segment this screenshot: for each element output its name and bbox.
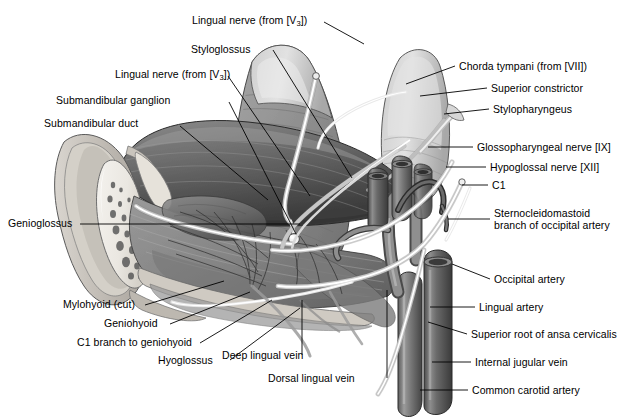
cranial-nerves-region xyxy=(172,92,470,394)
label-lingual-nerve-v3-mid: Lingual nerve (from [V3]) xyxy=(115,68,230,82)
label-hyoglossus: Hyoglossus xyxy=(158,354,213,366)
tongue-body xyxy=(121,121,406,227)
label-submandibular-ganglion: Submandibular ganglion xyxy=(56,94,170,106)
label-common-carotid-artery: Common carotid artery xyxy=(472,384,580,396)
label-superior-constrictor: Superior constrictor xyxy=(491,82,583,94)
anatomical-figure: Lingual nerve (from [V3]) Styloglossus L… xyxy=(0,0,626,420)
label-stylopharyngeus: Stylopharyngeus xyxy=(493,103,572,115)
lingual-veins xyxy=(252,286,362,356)
label-deep-lingual-vein: Deep lingual vein xyxy=(222,349,303,361)
label-occipital-artery: Occipital artery xyxy=(494,273,565,285)
cut-vessel-stumps xyxy=(368,156,432,231)
stylopharyngeus xyxy=(368,104,464,190)
superior-constrictor xyxy=(381,50,449,206)
label-sternocleidomastoid-branch: Sternocleidomastoid branch of occipital … xyxy=(494,207,612,231)
label-c1-branch-to-geniohyoid: C1 branch to geniohyoid xyxy=(77,336,192,348)
sublingual-gland xyxy=(162,196,266,240)
submandibular-ganglion-node xyxy=(289,234,300,245)
label-lingual-artery: Lingual artery xyxy=(479,301,543,313)
label-geniohyoid: Geniohyoid xyxy=(104,317,158,329)
label-superior-root-ansa-cervicalis: Superior root of ansa cervicalis xyxy=(471,328,617,340)
label-styloglossus: Styloglossus xyxy=(191,43,251,55)
label-dorsal-lingual-vein: Dorsal lingual vein xyxy=(268,372,355,384)
styloglossus xyxy=(282,140,410,250)
genioglossus-muscle xyxy=(233,45,350,285)
trabecular-bone xyxy=(107,182,143,280)
label-internal-jugular-vein: Internal jugular vein xyxy=(475,356,568,368)
label-mylohyoid-cut: Mylohyoid (cut) xyxy=(63,298,135,310)
label-glossopharyngeal-nerve: Glossopharyngeal nerve [IX] xyxy=(477,141,611,153)
label-submandibular-duct: Submandibular duct xyxy=(44,117,138,129)
label-c1: C1 xyxy=(492,179,506,191)
submandibular-duct xyxy=(136,206,292,244)
label-genioglossus: Genioglossus xyxy=(8,217,72,229)
lingual-nerve xyxy=(285,73,320,245)
label-lingual-nerve-v3-top: Lingual nerve (from [V3]) xyxy=(192,14,307,28)
label-hypoglossal-nerve: Hypoglossal nerve [XII] xyxy=(490,161,599,173)
neurovascular-plexus xyxy=(168,210,342,294)
label-chorda-tympani: Chorda tympani (from [VII]) xyxy=(459,60,587,72)
floor-of-mouth-muscles xyxy=(129,196,396,331)
